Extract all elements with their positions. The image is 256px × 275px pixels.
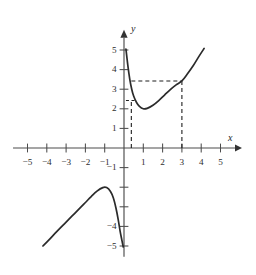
figure-container: −5−4−3−2−11234554321−1−4−5 x y [0,0,256,275]
y-tick-label--5: −5 [107,241,117,251]
x-tick-label--4: −4 [42,157,52,167]
x-tick-label--5: −5 [23,157,33,167]
x-tick-label-5: 5 [218,157,223,167]
x-tick-label-3: 3 [180,157,185,167]
x-tick-label-4: 4 [199,157,204,167]
y-tick-label-5: 5 [112,45,117,55]
y-tick-label-3: 3 [112,84,117,94]
coordinate-graph: −5−4−3−2−11234554321−1−4−5 x y [0,0,256,275]
x-axis-label: x [227,132,233,143]
y-tick-label--4: −4 [107,221,117,231]
y-tick-label-2: 2 [112,103,117,113]
x-tick-label-2: 2 [160,157,165,167]
y-tick-label--1: −1 [107,162,117,172]
y-tick-label-1: 1 [112,123,117,133]
x-tick-label--3: −3 [61,157,71,167]
y-tick-label-4: 4 [112,64,117,74]
x-tick-label--2: −2 [81,157,91,167]
x-tick-label-1: 1 [141,157,146,167]
graph-background [0,0,256,275]
y-axis-label: y [130,23,136,34]
